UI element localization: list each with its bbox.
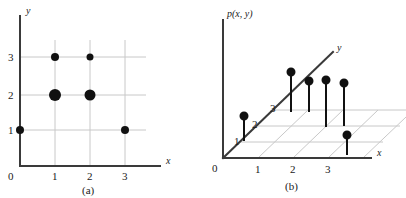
stem	[341, 80, 348, 127]
panel-b-x-tick-3: 3	[325, 163, 331, 175]
data-point	[85, 90, 96, 101]
panel-b-y-tick-3: 3	[270, 102, 276, 114]
panel-a-x-tick-2: 2	[87, 170, 93, 182]
panel-b-origin-label: 0	[212, 162, 218, 174]
panel-a-y-tick-2: 2	[8, 89, 14, 101]
panel-a-x-tick-1: 1	[52, 170, 58, 182]
panel-a-x-tick-3: 3	[122, 170, 128, 182]
panel-a-svg: y x 0 1 2 3 1 2 3 (a)	[0, 0, 203, 198]
panel-b-z-axis-label: p(x, y)	[226, 8, 253, 20]
data-point	[49, 89, 61, 101]
panel-a-y-tick-1: 1	[8, 124, 14, 136]
gridline-col-4	[363, 117, 406, 158]
data-point	[87, 54, 94, 61]
panel-b-x-tick-2: 2	[290, 163, 296, 175]
panel-b-y-tick-1: 1	[234, 135, 240, 147]
stem	[344, 132, 351, 156]
stem	[306, 78, 313, 113]
panel-a-caption: (a)	[82, 184, 95, 197]
panel-b-caption: (b)	[285, 180, 298, 193]
panel-a-scatter-plot: y x 0 1 2 3 1 2 3 (a)	[0, 0, 203, 198]
data-point	[51, 53, 59, 61]
panel-a-data-points	[16, 53, 129, 134]
figure-container: y x 0 1 2 3 1 2 3 (a)	[0, 0, 406, 198]
stem	[323, 77, 330, 128]
panel-a-x-axis-label: x	[165, 155, 171, 166]
panel-b-y-tick-2: 2	[252, 118, 258, 130]
panel-a-origin-label: 0	[8, 170, 14, 182]
panel-a-y-axis-label: y	[25, 5, 31, 16]
data-point	[16, 126, 24, 134]
panel-b-stem-plot: p(x, y) y x 0 1 2 3 1 2 3 (b)	[203, 0, 406, 198]
panel-b-x-tick-1: 1	[255, 163, 261, 175]
panel-b-x-axis-label: x	[376, 147, 382, 158]
panel-a-gridlines	[20, 40, 146, 166]
data-point	[121, 126, 129, 134]
panel-b-svg: p(x, y) y x 0 1 2 3 1 2 3 (b)	[203, 0, 406, 198]
panel-b-y-axis-label: y	[336, 42, 342, 53]
panel-a-y-tick-3: 3	[8, 51, 14, 63]
